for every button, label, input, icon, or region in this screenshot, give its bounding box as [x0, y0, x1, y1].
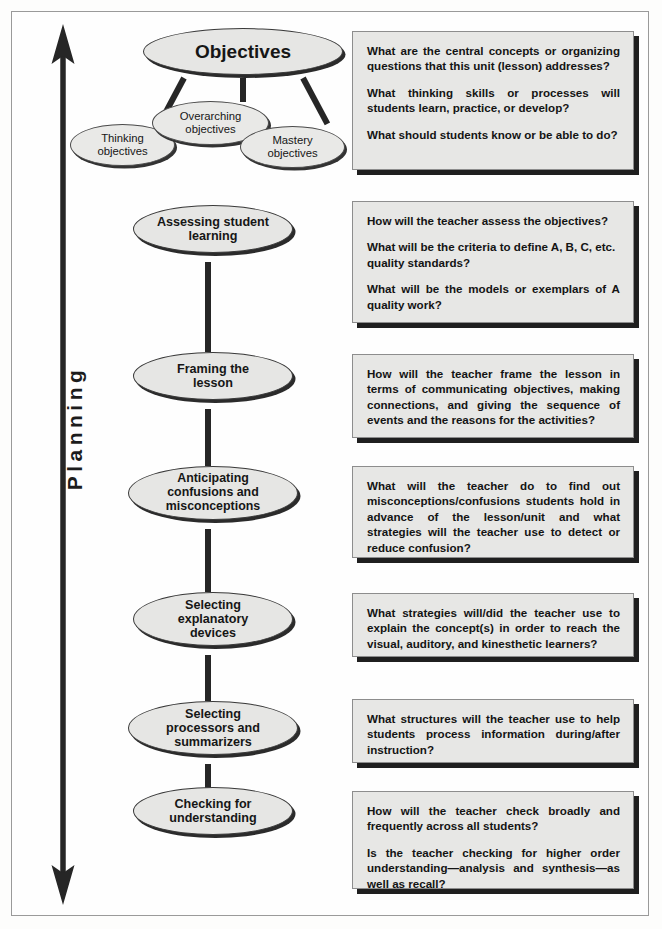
question-text: What are the central concepts or organiz… [367, 43, 620, 74]
stage-anticipating[interactable]: Anticipatingconfusions andmisconceptions [128, 466, 298, 520]
stage-processors-label: Selectingprocessors andsummarizers [160, 707, 266, 749]
stage-assessing-label: Assessing studentlearning [151, 215, 275, 243]
question-box-assessing: How will the teacher assess the objectiv… [352, 201, 634, 323]
question-box-objectives: What are the central concepts or organiz… [352, 31, 634, 170]
stage-checking[interactable]: Checking forunderstanding [133, 787, 293, 835]
stage-checking-label: Checking forunderstanding [163, 797, 262, 825]
question-box-anticipating: What will the teacher do to find out mis… [352, 466, 634, 558]
connector-anticipating-explanatory [205, 529, 211, 592]
connector-explanatory-processors [205, 655, 211, 701]
question-box-explanatory: What strategies will/did the teacher use… [352, 593, 634, 657]
stage-framing[interactable]: Framing thelesson [133, 352, 293, 400]
stage-explanatory[interactable]: Selectingexplanatorydevices [133, 592, 293, 646]
stage-mastery-objectives-label: Masteryobjectives [261, 134, 323, 159]
stage-explanatory-label: Selectingexplanatorydevices [172, 598, 255, 640]
connector-framing-anticipating [205, 409, 211, 466]
question-text: What will the teacher do to find out mis… [367, 478, 620, 555]
connector-objectives-overarching [240, 78, 246, 102]
stage-thinking-objectives-label: Thinkingobjectives [91, 132, 153, 157]
stage-overarching-objectives-label: Overarchingobjectives [174, 110, 248, 135]
question-box-framing: How will the teacher frame the lesson in… [352, 354, 634, 438]
stage-mastery-objectives[interactable]: Masteryobjectives [240, 126, 345, 168]
question-text: What will be the criteria to define A, B… [367, 239, 620, 270]
question-text: How will the teacher check broadly and f… [367, 803, 620, 834]
stage-anticipating-label: Anticipatingconfusions andmisconceptions [160, 472, 266, 514]
question-text: What thinking skills or processes will s… [367, 85, 620, 116]
question-text: How will the teacher assess the objectiv… [367, 213, 620, 228]
question-text: What structures will the teacher use to … [367, 711, 620, 757]
stage-framing-label: Framing thelesson [171, 362, 255, 390]
stage-objectives[interactable]: Objectives [143, 28, 343, 75]
question-text: How will the teacher frame the lesson in… [367, 366, 620, 428]
question-box-processors: What structures will the teacher use to … [352, 699, 634, 763]
stage-processors[interactable]: Selectingprocessors andsummarizers [128, 701, 298, 755]
question-box-checking: How will the teacher check broadly and f… [352, 791, 634, 889]
question-text: What will be the models or exemplars of … [367, 281, 620, 312]
connector-assessing-framing [205, 262, 211, 352]
planning-label: Planning [63, 313, 87, 543]
stage-assessing[interactable]: Assessing studentlearning [133, 205, 293, 253]
stage-objectives-label: Objectives [189, 41, 297, 62]
question-text: What strategies will/did the teacher use… [367, 605, 620, 651]
question-text: What should students know or be able to … [367, 127, 620, 142]
diagram-page: Planning Objectives Thinkingobjectives O… [0, 0, 662, 929]
question-text: Is the teacher checking for higher order… [367, 845, 620, 891]
